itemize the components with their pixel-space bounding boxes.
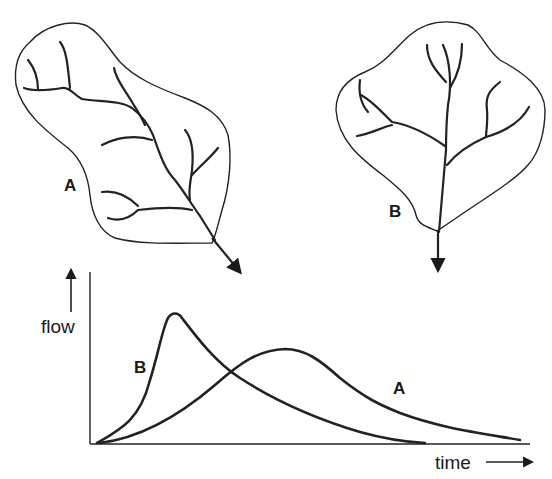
x-axis-label: time bbox=[435, 452, 471, 473]
curve-b-label: B bbox=[134, 358, 146, 377]
curve-a-label: A bbox=[393, 379, 405, 398]
basin-b-label: B bbox=[389, 202, 401, 221]
outlet-arrow-a bbox=[212, 238, 240, 272]
basin-b: B bbox=[336, 22, 545, 270]
river-network-b bbox=[357, 44, 529, 232]
curve-b bbox=[97, 314, 425, 444]
y-axis-label: flow bbox=[41, 316, 75, 337]
river-network-a bbox=[24, 42, 218, 240]
hydrograph-diagram: A B flow time bbox=[0, 0, 552, 479]
basin-a-label: A bbox=[64, 176, 76, 195]
curve-a bbox=[100, 349, 520, 443]
basin-a-outline bbox=[16, 23, 230, 243]
basin-a: A bbox=[16, 23, 240, 272]
basin-b-outline bbox=[336, 22, 545, 231]
hydrograph: flow time B A bbox=[41, 270, 532, 473]
